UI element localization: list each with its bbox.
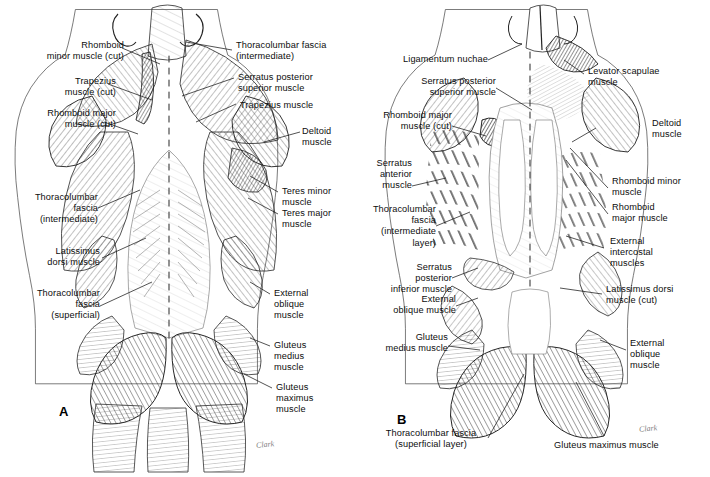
label-thoracolumbar-fascia-top: Thoracolumbar fascia (intermediate) (236, 40, 362, 62)
label-latissimus-dorsi-cut: Latissimus dorsi muscle (cut) (606, 284, 698, 306)
label-gluteus-maximus-b: Gluteus maximus muscle (554, 440, 704, 451)
label-gluteus-medius-b: Gluteus medius muscle (358, 332, 448, 354)
artist-signature-a: Clark (256, 439, 275, 449)
label-trapezius-a: Trapezius muscle (240, 100, 354, 111)
panel-letter-a: A (59, 404, 68, 419)
label-external-oblique-b-left: External oblique muscle (368, 294, 456, 316)
label-thoracolumbar-fascia-superficial-b: Thoracolumbar fascia (superficial layer) (372, 428, 490, 450)
label-rhomboid-major-cut: Rhomboid major muscle (cut) (4, 108, 116, 130)
label-external-oblique-b-right: External oblique muscle (630, 338, 696, 372)
label-thoracolumbar-fascia-intermediate: Thoracolumbar fascia (intermediate) (6, 192, 98, 226)
label-serratus-posterior-superior-a: Serratus posterior superior muscle (238, 72, 356, 94)
label-serratus-anterior: Serratus anterior muscle (356, 158, 412, 192)
panel-letter-b: B (397, 412, 406, 427)
label-rhomboid-minor-cut: Rhomboid minor muscle (cut) (6, 40, 124, 62)
anatomy-plate: Rhomboid minor muscle (cut) Trapezius mu… (0, 0, 710, 477)
label-thoracolumbar-fascia-intermediate-b: Thoracolumbar fascia (intermediate layer… (350, 204, 436, 249)
label-teres-major: Teres major muscle (282, 208, 358, 230)
label-gluteus-maximus-a: Gluteus maximus muscle (276, 382, 346, 416)
label-trapezius-cut: Trapezius muscle (cut) (6, 76, 116, 98)
label-external-oblique-a: External oblique muscle (274, 288, 344, 322)
label-gluteus-medius-a: Gluteus medius muscle (274, 340, 344, 374)
label-levator-scapulae: Levator scapulae muscle (588, 66, 704, 88)
label-rhomboid-major-b: Rhomboid major muscle (612, 202, 708, 224)
label-external-intercostal: External intercostal muscles (610, 236, 684, 270)
label-teres-minor: Teres minor muscle (282, 186, 358, 208)
label-deltoid-b: Deltoid muscle (652, 118, 708, 140)
label-serratus-posterior-inferior: Serratus posterior inferior muscle (370, 262, 452, 296)
label-thoracolumbar-fascia-superficial: Thoracolumbar fascia (superficial) (6, 288, 100, 322)
label-serratus-posterior-superior-b: Serratus posterior superior muscle (380, 76, 496, 98)
label-ligamentum-nuchae: Ligamentum nuchae (370, 54, 488, 65)
label-latissimus-dorsi: Latissimus dorsi muscle (8, 246, 100, 268)
label-rhomboid-minor-b: Rhomboid minor muscle (612, 176, 708, 198)
label-rhomboid-major-cut-b: Rhomboid major muscle (cut) (352, 110, 452, 132)
artist-signature-b: Clark (639, 423, 658, 433)
